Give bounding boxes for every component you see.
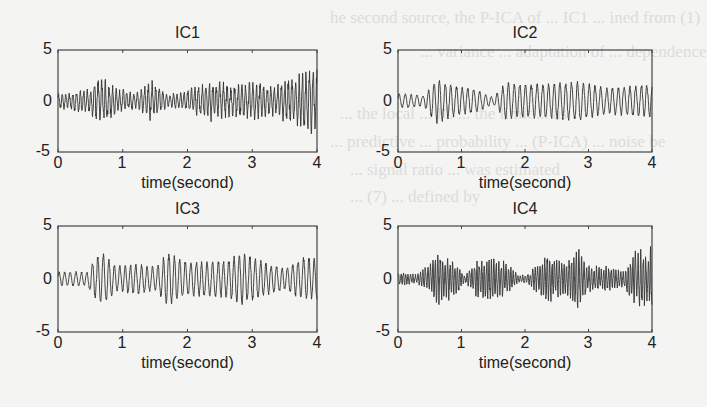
x-axis-title: time(second) [398,354,652,372]
subplot-ic3: IC3 5 0 -5 0 1 2 3 4 time(second) [58,226,317,332]
subplot-title: IC4 [398,200,652,218]
subplot-title: IC2 [398,24,652,42]
y-tick-label: -5 [26,322,50,340]
y-tick-label: 0 [28,92,52,110]
signal-line [58,254,317,305]
x-tick-label: 3 [578,334,598,352]
x-tick-label: 2 [177,334,197,352]
x-axis-title: time(second) [58,354,317,372]
x-tick-label: 4 [642,154,662,172]
y-tick-label: 5 [28,40,52,58]
y-tick-label: -5 [366,322,390,340]
y-tick-label: -5 [26,142,50,160]
x-tick-label: 3 [578,154,598,172]
subplot-title: IC1 [58,24,317,42]
x-axis-title: time(second) [398,174,652,192]
y-tick-label: 0 [368,92,392,110]
subplot-ic2: IC2 5 0 -5 0 1 2 3 4 time(second) [398,50,652,152]
y-tick-label: -5 [366,142,390,160]
plot-area [58,226,317,332]
x-tick-label: 0 [388,154,408,172]
plot-area [398,226,652,332]
x-tick-label: 0 [388,334,408,352]
subplot-title: IC3 [58,200,317,218]
plot-area [58,50,317,152]
x-tick-label: 4 [307,334,327,352]
x-tick-label: 4 [642,334,662,352]
subplot-ic1: IC1 5 0 -5 0 1 2 3 4 time(second) [58,50,317,152]
x-tick-label: 4 [307,154,327,172]
signal-line [58,70,317,134]
plot-area [398,50,652,152]
subplot-ic4: IC4 5 0 -5 0 1 2 3 4 time(second) [398,226,652,332]
signal-line [398,80,652,123]
x-tick-label: 2 [177,154,197,172]
y-tick-label: 5 [28,216,52,234]
x-tick-label: 0 [48,334,68,352]
x-tick-label: 0 [48,154,68,172]
y-tick-label: 5 [368,40,392,58]
x-tick-label: 2 [515,334,535,352]
x-tick-label: 1 [451,154,471,172]
y-tick-label: 0 [368,270,392,288]
x-tick-label: 3 [242,154,262,172]
y-tick-label: 0 [28,270,52,288]
x-axis-title: time(second) [58,174,317,192]
signal-line [398,246,652,307]
x-tick-label: 2 [515,154,535,172]
y-tick-label: 5 [368,216,392,234]
x-tick-label: 1 [451,334,471,352]
x-tick-label: 1 [112,154,132,172]
x-tick-label: 3 [242,334,262,352]
x-tick-label: 1 [112,334,132,352]
